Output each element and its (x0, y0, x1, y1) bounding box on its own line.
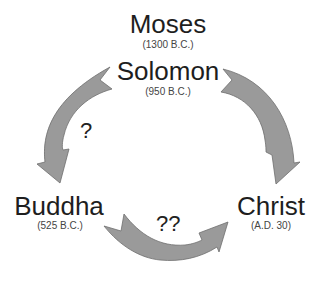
lineage-diagram: Moses (1300 B.C.) Solomon (950 B.C.) Bud… (0, 0, 322, 282)
node-christ-name: Christ (237, 193, 305, 219)
node-christ-date: (A.D. 30) (251, 221, 291, 231)
arrow-solomon-to-christ (221, 69, 300, 184)
node-buddha-date: (525 B.C.) (37, 221, 83, 231)
node-solomon-date: (950 B.C.) (145, 87, 191, 97)
node-moses-date: (1300 B.C.) (142, 40, 193, 50)
edge-label-solomon-buddha: ? (80, 120, 92, 142)
edge-label-buddha-christ: ?? (156, 213, 180, 235)
node-solomon-name: Solomon (117, 58, 220, 84)
node-buddha-name: Buddha (14, 193, 104, 219)
arrow-solomon-to-buddha (37, 67, 112, 183)
node-moses-name: Moses (130, 11, 207, 37)
